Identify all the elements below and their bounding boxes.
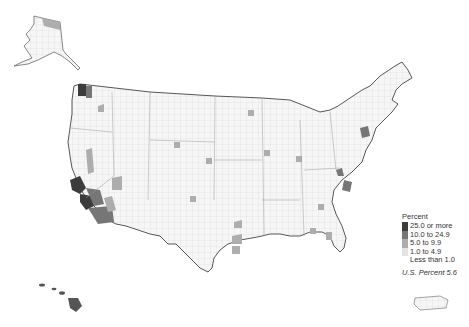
- legend-swatch: [402, 231, 408, 239]
- legend-swatch: [402, 239, 408, 247]
- legend-title: Percent: [402, 213, 457, 221]
- hawaii-inset: [39, 284, 82, 313]
- legend-item: Less than 1.0: [402, 256, 457, 264]
- legend-swatch: [402, 222, 408, 230]
- legend-swatch: [402, 256, 408, 264]
- puerto-rico-inset: [414, 296, 448, 310]
- map-legend: Percent 25.0 or more 10.0 to 24.9 5.0 to…: [402, 213, 457, 278]
- legend-swatch: [402, 248, 408, 256]
- us-county-map: [0, 0, 469, 327]
- legend-footnote: U.S. Percent 5.6: [402, 269, 457, 277]
